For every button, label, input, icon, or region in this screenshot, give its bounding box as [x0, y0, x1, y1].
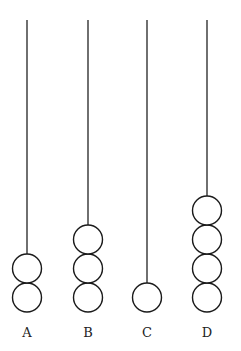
rod-label-a: A: [17, 325, 37, 340]
bead: [193, 196, 222, 225]
rod-a: [13, 20, 42, 312]
bead: [193, 283, 222, 312]
bead: [133, 283, 162, 312]
bead: [74, 254, 103, 283]
bead: [13, 254, 42, 283]
bead: [193, 254, 222, 283]
rod-label-b: B: [78, 325, 98, 340]
bead: [193, 225, 222, 254]
rod-label-d: D: [197, 325, 217, 340]
bead: [74, 225, 103, 254]
rod-c: [133, 20, 162, 312]
rod-b: [74, 20, 103, 312]
abacus-diagram: [0, 0, 241, 351]
bead: [74, 283, 103, 312]
rod-label-c: C: [137, 325, 157, 340]
bead: [13, 283, 42, 312]
rod-d: [193, 20, 222, 312]
